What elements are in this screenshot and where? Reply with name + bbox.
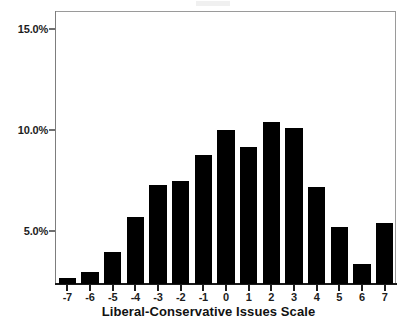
x-axis-tick-label: -2	[169, 291, 192, 303]
x-axis-tick-label: -5	[101, 291, 124, 303]
x-axis-tick-label: 2	[260, 291, 283, 303]
bar	[263, 122, 280, 284]
bar	[285, 128, 302, 284]
y-axis-tick-label: 10.0%	[0, 124, 48, 136]
x-axis-tick-label: 3	[283, 291, 306, 303]
bar	[195, 155, 212, 284]
bar-slot	[305, 11, 328, 284]
bar-slot	[56, 11, 79, 284]
y-axis-tick: 5.0%	[0, 224, 55, 238]
x-axis-tick-label: 4	[305, 291, 328, 303]
bar	[149, 185, 166, 284]
bar	[376, 223, 393, 284]
bar-slot	[328, 11, 351, 284]
y-axis-tick-mark	[49, 28, 55, 30]
bar-chart-figure: 15.0%10.0%5.0% -7-6-5-4-3-2-101234567 Li…	[0, 0, 417, 326]
bar	[81, 272, 98, 284]
y-axis-tick-label: 15.0%	[0, 23, 48, 35]
bar	[331, 227, 348, 284]
bar-slot	[124, 11, 147, 284]
x-axis-tick-label: 5	[328, 291, 351, 303]
x-axis-tick-label: -6	[79, 291, 102, 303]
x-axis-tick-label: 0	[215, 291, 238, 303]
x-axis-title: Liberal-Conservative Issues Scale	[0, 304, 417, 319]
bars-layer	[56, 11, 396, 284]
y-axis-tick-label: 5.0%	[0, 225, 48, 237]
bar-slot	[283, 11, 306, 284]
bar	[172, 181, 189, 284]
bar	[104, 252, 121, 284]
y-axis-tick-mark	[49, 129, 55, 131]
y-axis-tick: 15.0%	[0, 22, 55, 36]
x-axis-tick-label: -4	[124, 291, 147, 303]
bar-slot	[147, 11, 170, 284]
bar	[127, 217, 144, 284]
bar-slot	[351, 11, 374, 284]
scan-artifact	[196, 1, 230, 6]
bar-slot	[79, 11, 102, 284]
x-axis-tick-label: 1	[237, 291, 260, 303]
x-axis-tick-label: 7	[373, 291, 396, 303]
bar-slot	[373, 11, 396, 284]
bar-slot	[169, 11, 192, 284]
bar	[217, 130, 234, 284]
x-axis-tick-label: 6	[351, 291, 374, 303]
bar	[308, 187, 325, 284]
x-axis-tick-label: -1	[192, 291, 215, 303]
bar	[59, 278, 76, 284]
bar-slot	[260, 11, 283, 284]
bar-slot	[192, 11, 215, 284]
bar	[353, 264, 370, 284]
y-axis-tick: 10.0%	[0, 123, 55, 137]
bar-slot	[237, 11, 260, 284]
bar-slot	[101, 11, 124, 284]
x-axis-tick-label: -7	[56, 291, 79, 303]
bar	[240, 147, 257, 285]
bar-slot	[215, 11, 238, 284]
x-axis-tick-label: -3	[147, 291, 170, 303]
y-axis-tick-mark	[49, 230, 55, 232]
